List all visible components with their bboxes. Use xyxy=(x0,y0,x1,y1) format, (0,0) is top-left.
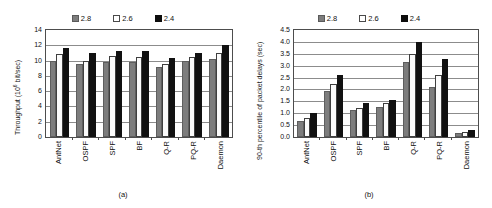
legend-label: 2.6 xyxy=(368,15,378,23)
legend-item-2.8: 2.8 xyxy=(318,15,337,23)
bar-2.4 xyxy=(63,48,70,137)
legend-label: 2.8 xyxy=(81,15,91,23)
bar-2.4 xyxy=(389,100,396,137)
bar-group xyxy=(99,30,126,137)
bar-group xyxy=(373,30,399,137)
x-label-cell: OSPF xyxy=(320,139,347,185)
bar-2.4 xyxy=(195,53,202,137)
y-tick-label: 2.0 xyxy=(280,85,290,92)
bar-group xyxy=(152,30,179,137)
legend-b: 2.8 2.6 2.4 xyxy=(246,15,492,23)
bar-group xyxy=(294,30,320,137)
bar-group xyxy=(399,30,425,137)
gray-square-icon xyxy=(72,15,79,22)
bar-group xyxy=(320,30,346,137)
y-tick-label: 4.0 xyxy=(280,37,290,44)
bar-2.4 xyxy=(337,75,344,137)
y-axis-ticks-b: 0.00.51.01.52.02.53.03.54.04.5 xyxy=(270,29,290,138)
caption-b: (b) xyxy=(246,190,492,199)
x-tick-label: SPF xyxy=(355,141,364,156)
gray-square-icon xyxy=(318,15,325,22)
x-tick-label: AntNet xyxy=(302,141,311,164)
x-label-cell: SPF xyxy=(99,139,126,185)
bar-2.4 xyxy=(363,103,370,137)
legend-item-2.8: 2.8 xyxy=(72,15,91,23)
bar-group xyxy=(425,30,451,137)
bar-group xyxy=(46,30,73,137)
y-tick-label: 3.5 xyxy=(280,49,290,56)
x-label-cell: SPF xyxy=(346,139,373,185)
legend-item-2.6: 2.6 xyxy=(113,15,132,23)
bar-2.4 xyxy=(310,113,317,137)
bar-2.4 xyxy=(416,42,423,137)
legend-label: 2.4 xyxy=(410,15,420,23)
x-label-cell: OSPF xyxy=(72,139,99,185)
legend-a: 2.8 2.6 2.4 xyxy=(0,15,246,23)
bar-group xyxy=(73,30,100,137)
plot-area-b xyxy=(293,29,479,138)
y-tick-label: 3.0 xyxy=(280,61,290,68)
bar-2.4 xyxy=(468,130,475,137)
y-tick-label: 14 xyxy=(34,26,42,33)
x-tick-label: PQ-R xyxy=(188,141,197,160)
bar-groups xyxy=(294,30,478,137)
x-tick-label: OSPF xyxy=(328,141,337,161)
x-label-cell: PQ-R xyxy=(426,139,453,185)
legend-item-2.6: 2.6 xyxy=(359,15,378,23)
bar-group xyxy=(347,30,373,137)
bar-2.4 xyxy=(222,45,229,137)
x-label-cell: AntNet xyxy=(45,139,72,185)
x-label-cell: BF xyxy=(373,139,400,185)
legend-label: 2.4 xyxy=(164,15,174,23)
x-axis-labels-a: AntNetOSPFSPFBFQ-RPQ-RDaemon xyxy=(45,139,233,185)
y-tick-label: 1.5 xyxy=(280,97,290,104)
x-label-cell: Daemon xyxy=(206,139,233,185)
y-tick-label: 6 xyxy=(38,87,42,94)
x-tick-label: Q-R xyxy=(408,141,417,155)
y-tick-label: 2 xyxy=(38,117,42,124)
x-tick-label: BF xyxy=(382,141,391,151)
y-axis-title-b: 90-th percentile of packet delays (sec) xyxy=(256,42,263,160)
x-axis-labels-b: AntNetOSPFSPFBFQ-RPQ-RDaemon xyxy=(293,139,479,185)
x-tick-label: SPF xyxy=(108,141,117,156)
y-tick-label: 0.5 xyxy=(280,121,290,128)
plot-area-a xyxy=(45,29,233,138)
x-label-cell: Q-R xyxy=(399,139,426,185)
x-tick-label: BF xyxy=(135,141,144,151)
y-axis-title-a: Throughput (106 bit/sec) xyxy=(12,60,21,135)
x-tick-label: PQ-R xyxy=(435,141,444,160)
legend-label: 2.8 xyxy=(327,15,337,23)
caption-a: (a) xyxy=(0,190,246,199)
x-tick-label: Daemon xyxy=(215,141,224,169)
y-tick-label: 10 xyxy=(34,56,42,63)
figure-b: 2.8 2.6 2.4 90-th percentile of packet d… xyxy=(246,0,492,208)
bar-2.4 xyxy=(142,51,149,137)
black-square-icon xyxy=(401,15,408,22)
x-tick-label: OSPF xyxy=(81,141,90,161)
figure-a: 2.8 2.6 2.4 Throughput (106 bit/sec) 024… xyxy=(0,0,246,208)
white-square-icon xyxy=(359,15,366,22)
figure-pair: 2.8 2.6 2.4 Throughput (106 bit/sec) 024… xyxy=(0,0,492,208)
bar-groups xyxy=(46,30,232,137)
bar-2.4 xyxy=(116,51,123,137)
y-tick-label: 8 xyxy=(38,71,42,78)
y-tick-label: 4 xyxy=(38,102,42,109)
x-label-cell: AntNet xyxy=(293,139,320,185)
legend-item-2.4: 2.4 xyxy=(401,15,420,23)
bar-group xyxy=(126,30,153,137)
legend-item-2.4: 2.4 xyxy=(155,15,174,23)
y-tick-label: 0.0 xyxy=(280,133,290,140)
y-tick-label: 0 xyxy=(38,133,42,140)
x-tick-label: Daemon xyxy=(461,141,470,169)
x-tick-label: Q-R xyxy=(161,141,170,155)
bar-2.4 xyxy=(89,53,96,137)
x-label-cell: PQ-R xyxy=(179,139,206,185)
y-tick-label: 12 xyxy=(34,41,42,48)
y-tick-label: 1.0 xyxy=(280,109,290,116)
white-square-icon xyxy=(113,15,120,22)
y-tick-label: 4.5 xyxy=(280,26,290,33)
x-label-cell: BF xyxy=(126,139,153,185)
y-tick-label: 2.5 xyxy=(280,73,290,80)
bar-2.4 xyxy=(169,58,176,137)
y-axis-ticks-a: 02468101214 xyxy=(22,29,42,138)
